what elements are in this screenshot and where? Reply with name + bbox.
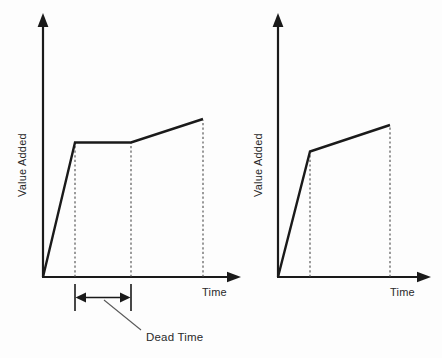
right-y-axis-label: Value Added bbox=[252, 133, 264, 197]
right-chart-x-axis bbox=[277, 272, 431, 282]
right-x-axis-label: Time bbox=[390, 286, 415, 298]
right-y-axis-arrowhead-icon bbox=[273, 13, 284, 27]
dead-time-label: Dead Time bbox=[146, 331, 203, 343]
dead-time-right-arrowhead-icon bbox=[120, 293, 131, 303]
right-chart: Time Value Added bbox=[252, 13, 431, 298]
left-y-axis-arrowhead-icon bbox=[38, 13, 49, 27]
left-value-added-line bbox=[43, 119, 203, 277]
dead-time-left-arrowhead-icon bbox=[76, 293, 87, 303]
left-y-axis-label: Value Added bbox=[16, 133, 28, 197]
diagram-svg: Dead Time Time Value Added Time bbox=[0, 0, 442, 358]
left-x-axis-label: Time bbox=[202, 286, 227, 298]
left-chart-y-axis bbox=[38, 13, 49, 277]
figure-canvas: Dead Time Time Value Added Time bbox=[0, 0, 442, 358]
right-x-axis-arrowhead-icon bbox=[417, 272, 431, 282]
right-chart-y-axis bbox=[273, 13, 284, 277]
dead-time-leader-line bbox=[104, 300, 141, 330]
left-x-axis-arrowhead-icon bbox=[227, 272, 241, 282]
right-value-added-line bbox=[278, 125, 390, 277]
dead-time-bracket bbox=[75, 284, 141, 330]
left-chart-x-axis bbox=[42, 272, 241, 282]
left-chart: Dead Time Time Value Added bbox=[16, 13, 241, 343]
